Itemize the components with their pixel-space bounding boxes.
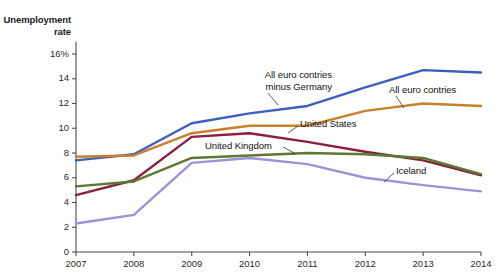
x-tick-2008: 2008 [114,258,154,269]
y-tick-8: 8 [64,147,69,158]
series-label-all-euro-countries: All euro contries [389,84,456,96]
y-tick-6: 6 [64,171,69,182]
series-label-iceland: Iceland [396,165,426,177]
annotation-leader-lines [268,93,404,182]
series-label-united-kingdom: United Kingdom [205,140,272,152]
y-tick-10: 10 [58,122,69,133]
x-tick-2010: 2010 [230,258,270,269]
y-tick-14: 14 [58,72,69,83]
y-tick-4: 4 [64,196,69,207]
y-axis-title: Unemployment rate [4,14,71,37]
x-tick-2007: 2007 [56,258,96,269]
chart-plot-area [0,0,500,278]
series-label-all-euro-countries-minus-germany: All euro contries minus Germany [265,69,332,92]
x-tick-2012: 2012 [345,258,385,269]
x-tick-2011: 2011 [287,258,327,269]
series-label-united-states: United States [300,118,356,130]
y-tick-2: 2 [64,221,69,232]
x-tick-2014: 2014 [461,258,500,269]
x-tick-2009: 2009 [172,258,212,269]
x-tick-2013: 2013 [403,258,443,269]
y-tick-0: 0 [64,246,69,257]
unemployment-rate-line-chart: Unemployment rate 16%14121086420 2007200… [0,0,500,278]
y-tick-12: 12 [58,97,69,108]
y-tick-16: 16% [50,48,69,59]
